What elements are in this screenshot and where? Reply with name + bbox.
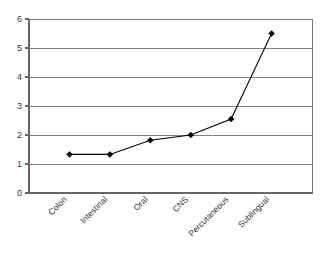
y-tick-label-2: 2 — [17, 130, 22, 140]
y-tick-label-6: 6 — [17, 14, 22, 24]
x-tick-label-oral: Oral — [131, 194, 150, 213]
x-tick-label-intestinal: Intestinal — [78, 194, 109, 225]
y-tick-label-0: 0 — [17, 188, 22, 198]
y-tick-label-3: 3 — [17, 101, 22, 111]
y-axis-tick-labels: 6 5 4 3 2 1 0 — [17, 14, 22, 198]
chart-canvas: 6 5 4 3 2 1 0 Colon Intestinal Oral CNS … — [0, 0, 327, 258]
line-chart: 6 5 4 3 2 1 0 Colon Intestinal Oral CNS … — [0, 0, 327, 258]
x-tick-label-sublingual: Sublingual — [236, 194, 271, 229]
x-tick-label-cns: CNS — [170, 194, 190, 214]
x-axis-tick-labels: Colon Intestinal Oral CNS Percutaneous S… — [46, 194, 271, 238]
x-tick-label-percutaneous: Percutaneous — [186, 194, 230, 238]
y-tick-label-1: 1 — [17, 159, 22, 169]
y-tick-label-5: 5 — [17, 43, 22, 53]
y-tick-label-4: 4 — [17, 72, 22, 82]
x-tick-label-colon: Colon — [46, 194, 69, 217]
